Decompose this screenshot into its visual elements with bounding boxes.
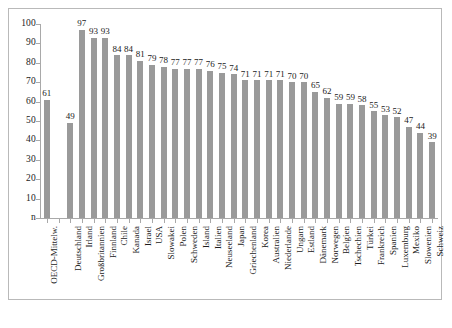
bar-value-label: 71	[276, 70, 285, 79]
x-axis-tick-mark	[385, 219, 386, 223]
x-axis-category-label: Slowenien	[424, 226, 433, 264]
bar-value-label: 78	[159, 56, 168, 65]
bar-slot: 65	[310, 24, 322, 218]
bar	[289, 82, 295, 218]
bar-slot: 77	[169, 24, 181, 218]
bar-slot: 44	[415, 24, 427, 218]
x-axis-tick-mark	[292, 219, 293, 223]
bar	[301, 82, 307, 218]
x-axis-tick-mark	[199, 219, 200, 223]
x-axis-tick-mark	[409, 219, 410, 223]
x-axis-tick-mark	[327, 219, 328, 223]
x-axis-tick-mark	[140, 219, 141, 223]
x-axis-tick-mark	[82, 219, 83, 223]
bar-slot: 93	[99, 24, 111, 218]
bar-value-label: 53	[381, 105, 390, 114]
x-axis-category-label: Griechenland	[249, 226, 258, 274]
x-axis-tick-mark	[245, 219, 246, 223]
bar-value-label: 70	[299, 72, 308, 81]
bar-slot: 61	[41, 24, 53, 218]
x-axis-category-label: Polen	[179, 226, 188, 247]
bar	[196, 69, 202, 218]
bar-slot: 70	[298, 24, 310, 218]
x-axis-category-label: Island	[202, 226, 211, 248]
bar-value-label: 62	[323, 87, 332, 96]
x-axis-category-label: OECD-Mittelw.	[50, 226, 59, 284]
bar	[336, 104, 342, 218]
x-axis-category-label: Kanada	[132, 226, 141, 253]
x-axis-tick-mark	[350, 219, 351, 223]
bar-value-label: 75	[217, 62, 226, 71]
y-axis-tick-mark	[36, 24, 41, 25]
x-axis-tick-mark	[234, 219, 235, 223]
bar-slot: 39	[426, 24, 438, 218]
bar	[126, 55, 132, 218]
y-axis-tick-mark	[36, 179, 41, 180]
x-axis-category-label: Estland	[307, 226, 316, 253]
bar-slot: 71	[251, 24, 263, 218]
x-axis-category-label: Dänemark	[319, 226, 328, 263]
x-axis-category-label: Luxemburg	[401, 226, 410, 268]
bar-value-label: 61	[42, 89, 51, 98]
bar-value-label: 59	[346, 93, 355, 102]
bar-value-label: 55	[369, 101, 378, 110]
bar	[102, 38, 108, 218]
x-axis-tick-mark	[315, 219, 316, 223]
bar	[91, 38, 97, 218]
x-axis-category-label: Finnland	[109, 226, 118, 258]
bar	[312, 92, 318, 218]
bar	[137, 61, 143, 218]
bar-slot: 58	[356, 24, 368, 218]
y-axis-tick-label: 100	[10, 19, 36, 29]
bar	[417, 133, 423, 218]
x-axis-category-label: Ungarn	[296, 226, 305, 253]
y-axis-tick-label: n	[10, 213, 36, 223]
bar	[44, 100, 50, 218]
bar-slot: 74	[228, 24, 240, 218]
y-axis-tick-mark	[36, 43, 41, 44]
x-axis-tick-mark	[164, 219, 165, 223]
bar-slot: 71	[263, 24, 275, 218]
bar-slot: 77	[181, 24, 193, 218]
x-axis-category-label: Irland	[85, 226, 94, 248]
x-axis-tick-mark	[210, 219, 211, 223]
bar-slot: 52	[391, 24, 403, 218]
bar	[242, 80, 248, 218]
bar-value-label: 59	[334, 93, 343, 102]
y-axis-tick-mark	[36, 199, 41, 200]
y-axis-tick-mark	[36, 63, 41, 64]
bar-value-label: 70	[288, 72, 297, 81]
x-axis-tick-mark	[105, 219, 106, 223]
bar-slot: 70	[286, 24, 298, 218]
y-axis-tick-label: 10	[10, 194, 36, 204]
bar	[254, 80, 260, 218]
x-axis-category-label: Deutschland	[74, 226, 83, 271]
bar	[219, 73, 225, 219]
x-axis-category-label: Israel	[144, 226, 153, 246]
x-axis-tick-mark	[257, 219, 258, 223]
bar	[371, 111, 377, 218]
bar-value-label: 77	[171, 58, 180, 67]
x-axis-category-labels: OECD-Mittelw.DeutschlandIrlandGroßbritan…	[41, 226, 438, 296]
x-axis-tick-mark	[397, 219, 398, 223]
x-axis-category-label: Italien	[214, 226, 223, 249]
x-axis-tick-mark	[59, 219, 60, 223]
bar-slot: 71	[275, 24, 287, 218]
bar	[406, 127, 412, 218]
bar-value-label: 71	[253, 70, 262, 79]
bar-value-label: 47	[404, 116, 413, 125]
bar-value-label: 93	[101, 27, 110, 36]
bar-value-label: 58	[358, 95, 367, 104]
bar	[161, 67, 167, 218]
x-axis-category-label: Japan	[237, 226, 246, 247]
bar-value-label: 74	[229, 64, 238, 73]
bar-slot: 47	[403, 24, 415, 218]
x-axis-tick-mark	[47, 219, 48, 223]
bar-slot: 53	[380, 24, 392, 218]
bar-value-label: 52	[393, 107, 402, 116]
bar	[359, 105, 365, 218]
y-axis-tick-label: 90	[10, 39, 36, 49]
x-axis-tick-mark	[362, 219, 363, 223]
plot-area: 6149979393848481797877777776757471717171…	[40, 24, 438, 218]
y-axis-tick-labels: n102030405060708090100	[10, 24, 36, 218]
